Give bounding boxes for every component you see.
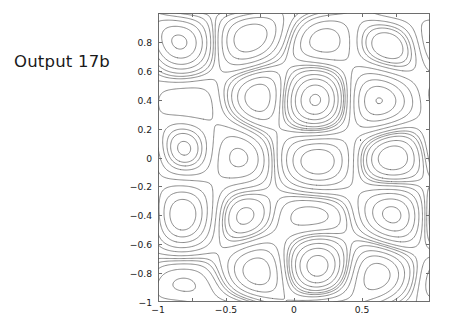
y-tick-right	[426, 215, 430, 216]
y-tick-label: 0	[146, 152, 152, 163]
contour-line	[158, 13, 222, 79]
x-tick-label: −1	[151, 304, 165, 315]
contour-line	[173, 278, 196, 291]
contour-line	[158, 258, 257, 302]
contour-line	[372, 33, 403, 59]
y-tick	[158, 186, 162, 187]
y-tick	[158, 273, 162, 274]
y-tick	[158, 100, 162, 101]
y-tick	[158, 158, 162, 159]
contour-line	[291, 75, 338, 124]
y-tick-label: 0.8	[137, 36, 152, 47]
contour-line	[170, 199, 196, 230]
x-tick-label: 0	[291, 304, 297, 315]
y-tick-label: −0.8	[130, 268, 152, 279]
contour-line	[373, 199, 409, 231]
x-tick-top	[260, 13, 261, 17]
x-tick-label: 0.5	[355, 304, 370, 315]
contour-line	[158, 125, 264, 252]
y-tick-right	[426, 71, 430, 72]
contour-line	[300, 248, 335, 283]
y-tick-label: −1	[138, 297, 152, 308]
y-tick-label: −0.4	[130, 210, 152, 221]
contour-line	[359, 80, 405, 121]
contour-line	[307, 256, 328, 277]
contour-line	[358, 189, 419, 241]
x-tick	[260, 298, 261, 302]
x-tick-top	[294, 13, 295, 17]
y-tick-right	[426, 129, 430, 130]
contour-line	[334, 256, 399, 302]
x-tick	[294, 298, 295, 302]
y-tick-label: −0.6	[130, 239, 152, 250]
y-tick	[158, 129, 162, 130]
contour-line	[362, 25, 411, 67]
contour-line	[162, 26, 196, 58]
contour-line	[229, 199, 264, 233]
contour-figure: −1−0.500.5 −1−0.8−0.6−0.4−0.200.20.40.60…	[158, 13, 430, 302]
y-tick-right	[426, 244, 430, 245]
y-tick-label: 0.6	[137, 65, 152, 76]
x-tick-label: −0.5	[215, 304, 237, 315]
contour-line	[376, 98, 382, 104]
contour-line	[158, 269, 229, 302]
y-tick-right	[426, 100, 430, 101]
x-tick	[192, 298, 193, 302]
contour-line	[378, 146, 407, 170]
contour-line	[234, 24, 267, 52]
contour-line	[291, 207, 328, 225]
screenshot-root: Output 17b −1−0.500.5 −1−0.8−0.6−0.4−0.2…	[0, 0, 454, 330]
page-title: Output 17b	[14, 52, 144, 71]
contour-line	[218, 137, 258, 178]
y-tick-label: 0.4	[137, 94, 152, 105]
contour-line	[222, 13, 413, 302]
contour-line	[383, 207, 401, 223]
x-tick-top	[328, 13, 329, 17]
y-tick-right	[426, 42, 430, 43]
x-tick	[396, 298, 397, 302]
contour-lines	[158, 13, 430, 302]
y-tick-right	[426, 186, 430, 187]
contour-line	[159, 186, 207, 243]
contour-line	[364, 263, 390, 289]
contour-line	[301, 85, 329, 114]
contour-line	[158, 261, 252, 302]
contour-line	[421, 20, 430, 61]
contour-line	[159, 88, 213, 120]
contour-line	[234, 250, 277, 292]
contour-line	[301, 21, 350, 60]
contour-line	[158, 264, 244, 302]
y-tick-right	[426, 273, 430, 274]
contour-line	[158, 79, 410, 302]
contour-line	[178, 141, 191, 155]
y-tick	[158, 215, 162, 216]
x-tick-top	[192, 13, 193, 17]
x-tick	[362, 298, 363, 302]
contour-line	[429, 203, 430, 230]
contour-line	[310, 94, 321, 105]
x-tick-top	[396, 13, 397, 17]
contour-line	[230, 148, 248, 166]
contour-line	[171, 133, 198, 162]
contour-line	[237, 208, 254, 225]
contour-line	[287, 139, 349, 186]
contour-line	[172, 35, 187, 49]
contour-line	[295, 243, 339, 287]
y-tick	[158, 42, 162, 43]
x-tick	[328, 298, 329, 302]
contour-line	[283, 65, 345, 130]
y-tick	[158, 244, 162, 245]
contour-line	[301, 149, 334, 174]
x-tick-top	[362, 13, 363, 17]
y-tick-label: 0.2	[137, 123, 152, 134]
x-tick-top	[226, 13, 227, 17]
y-tick-label: −0.2	[130, 181, 152, 192]
contour-line	[354, 74, 413, 128]
x-tick	[226, 298, 227, 302]
contour-line	[245, 84, 270, 111]
contour-line	[167, 129, 202, 166]
contour-line	[310, 29, 340, 52]
y-tick	[158, 71, 162, 72]
contour-line	[158, 294, 190, 302]
contour-line	[243, 258, 270, 285]
